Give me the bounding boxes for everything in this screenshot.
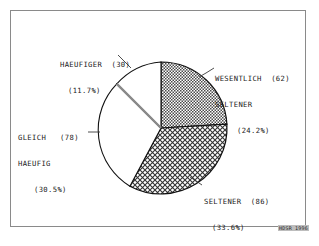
pie-label-gleich-haeufig-line1: GLEICH (78) (18, 134, 79, 143)
pie-label-seltener: SELTENER (86) (33.6%) (204, 181, 269, 246)
pie-label-gleich-haeufig-line3: (30.5%) (18, 186, 79, 195)
pie-label-seltener-line1: SELTENER (86) (204, 198, 269, 207)
pie-label-wesentlich-seltener-line3: (24.2%) (215, 127, 290, 136)
pie-label-wesentlich-seltener-line1: WESENTLICH (62) (215, 75, 290, 84)
chart-page: HAEUFIGER (30) (11.7%) WESENTLICH (62) S… (0, 0, 319, 246)
credit-stamp: HDSR 1996 (278, 225, 309, 231)
pie-label-haeufiger-line2: (11.7%) (60, 87, 130, 96)
pie-label-haeufiger: HAEUFIGER (30) (11.7%) (60, 44, 130, 113)
pie-label-seltener-line2: (33.6%) (204, 224, 269, 233)
pie-label-haeufiger-line1: HAEUFIGER (30) (60, 61, 130, 70)
pie-label-gleich-haeufig-line2: HAEUFIG (18, 160, 79, 169)
leader-line-wesentlich-seltener (199, 68, 214, 77)
pie-label-gleich-haeufig: GLEICH (78) HAEUFIG (30.5%) (18, 117, 79, 212)
pie-label-wesentlich-seltener: WESENTLICH (62) SELTENER (24.2%) (215, 58, 290, 153)
pie-label-wesentlich-seltener-line2: SELTENER (215, 101, 290, 110)
